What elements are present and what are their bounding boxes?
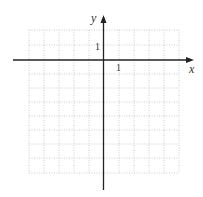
y-axis-arrow-icon bbox=[101, 15, 107, 23]
y-axis-label: y bbox=[90, 11, 97, 25]
x-axis-label: x bbox=[188, 62, 195, 76]
x-tick-label: 1 bbox=[116, 62, 121, 73]
y-tick-label: 1 bbox=[95, 41, 100, 52]
y-axis bbox=[101, 15, 107, 190]
coordinate-plane: y x 1 1 bbox=[0, 0, 203, 197]
